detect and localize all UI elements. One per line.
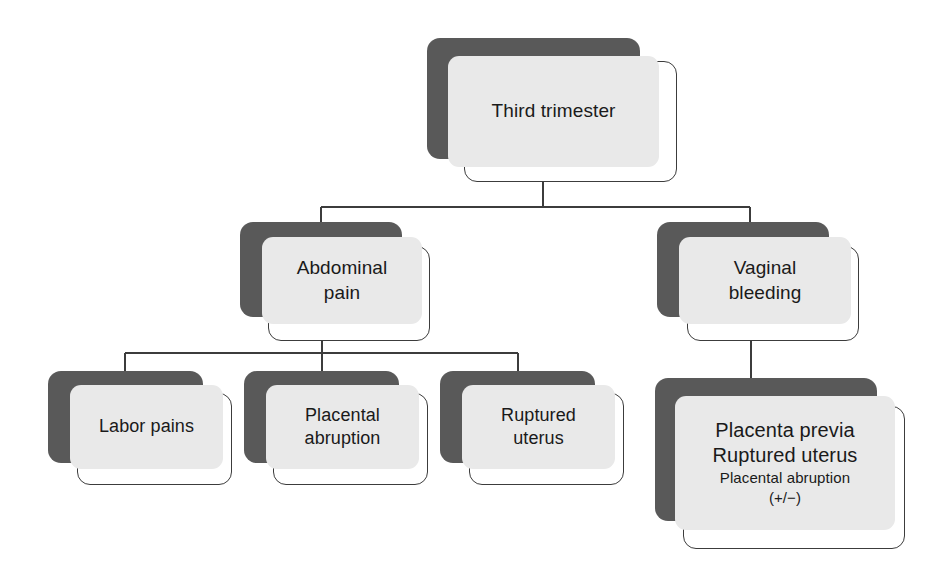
node-fill: Abdominal pain (262, 237, 422, 324)
node-label: Labor pains (93, 415, 200, 438)
node-label: Third trimester (486, 99, 622, 123)
node-ruptured-uterus[interactable]: Ruptured uterus (440, 371, 625, 486)
node-label-group: Placenta previa Ruptured uterus Placenta… (707, 418, 864, 509)
node-label-line-4: (+/−) (713, 488, 858, 508)
node-fill: Ruptured uterus (462, 385, 615, 469)
node-bleeding-causes[interactable]: Placenta previa Ruptured uterus Placenta… (655, 378, 905, 553)
flowchart-canvas: Third trimester Abdominal pain Vaginal b… (0, 0, 927, 588)
node-abdominal-pain[interactable]: Abdominal pain (240, 222, 430, 342)
node-placental-abruption[interactable]: Placental abruption (244, 371, 429, 486)
node-fill: Placenta previa Ruptured uterus Placenta… (675, 396, 895, 530)
node-vaginal-bleeding[interactable]: Vaginal bleeding (657, 222, 862, 342)
node-label: Ruptured uterus (495, 404, 582, 450)
node-fill: Vaginal bleeding (679, 237, 851, 324)
node-label: Abdominal pain (291, 256, 394, 305)
node-fill: Placental abruption (266, 385, 419, 469)
node-label-line-2: Ruptured uterus (713, 443, 858, 468)
node-label: Vaginal bleeding (723, 256, 808, 305)
node-label-line-3: Placental abruption (713, 468, 858, 488)
node-label-line-1: Placenta previa (713, 418, 858, 443)
node-labor-pains[interactable]: Labor pains (48, 371, 233, 486)
node-third-trimester[interactable]: Third trimester (427, 38, 677, 182)
node-fill: Third trimester (448, 56, 659, 167)
node-fill: Labor pains (70, 385, 223, 469)
node-label: Placental abruption (299, 404, 387, 450)
